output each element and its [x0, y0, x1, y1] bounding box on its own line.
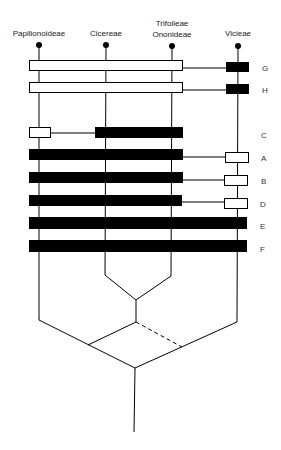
row-label-h: H: [262, 86, 268, 95]
row-label-d: D: [260, 200, 266, 209]
row-label-e: E: [260, 222, 265, 231]
lineage-lines: [39, 45, 238, 432]
row-label-b: B: [261, 177, 266, 186]
taxon-label-trifolieae: Trifolieae: [156, 19, 189, 28]
row-h: H: [30, 83, 269, 96]
row-label-g: G: [262, 64, 268, 73]
row-a: A: [29, 149, 267, 163]
row-b: B: [29, 172, 266, 186]
row-c: C: [30, 127, 268, 140]
taxon-label-papilionoideae: Papilionoideae: [13, 29, 66, 38]
taxon-label-cicereae: Cicereae: [90, 29, 123, 38]
row-label-c: C: [261, 131, 267, 140]
row-d: D: [29, 195, 266, 209]
row-label-f: F: [260, 245, 265, 254]
taxon-label-vicieae: Vicieae: [225, 29, 252, 38]
phylogeny-diagram: Papilionoideae Cicereae Trifolieae Ononi…: [0, 0, 281, 450]
row-e: E: [29, 217, 265, 231]
row-label-a: A: [261, 154, 267, 163]
row-f: F: [29, 240, 265, 254]
taxon-label-ononideae: Ononideae: [152, 30, 192, 39]
row-g: G: [30, 61, 269, 74]
